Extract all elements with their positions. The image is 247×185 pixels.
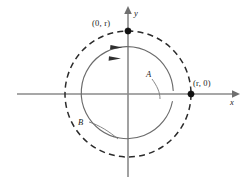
point-dot-top	[125, 28, 131, 34]
y-axis-label: y	[134, 9, 138, 18]
curve-label-b: B	[78, 118, 83, 127]
figure-graphics	[0, 0, 247, 185]
y-axis-arrowhead	[124, 6, 132, 14]
figure-canvas: (0, r) (r, 0) y x A B	[0, 0, 247, 185]
point-label-right: (r, 0)	[193, 79, 211, 88]
point-dot-right	[188, 91, 194, 97]
inner-direction-arrow	[109, 56, 121, 61]
point-label-top: (0, r)	[92, 19, 110, 28]
leader-line-a	[152, 79, 160, 99]
curve-label-a: A	[146, 70, 151, 79]
outer-direction-arrow	[110, 45, 123, 50]
x-axis-label: x	[230, 98, 234, 107]
